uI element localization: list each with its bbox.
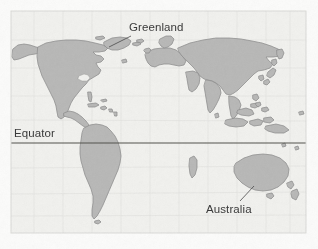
map-label-equator: Equator: [14, 127, 55, 140]
paper-texture-coarse: [0, 0, 318, 249]
map-label-australia: Australia: [206, 203, 252, 216]
map-label-greenland: Greenland: [129, 21, 184, 34]
map-canvas: [0, 0, 318, 249]
world-map-figure: Greenland Equator Australia: [0, 0, 318, 249]
